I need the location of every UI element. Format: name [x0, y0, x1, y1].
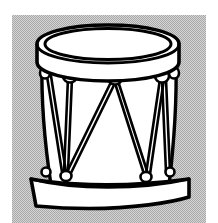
drum-illustration [0, 0, 218, 223]
lug-bottom-left [61, 171, 72, 181]
lug-bottom-edge-left [42, 168, 51, 177]
drum-head [45, 29, 171, 60]
figure-root [0, 0, 218, 223]
lug-bottom-edge-right [166, 168, 175, 177]
lug-bottom-center [141, 172, 152, 182]
drum-group [31, 25, 189, 209]
